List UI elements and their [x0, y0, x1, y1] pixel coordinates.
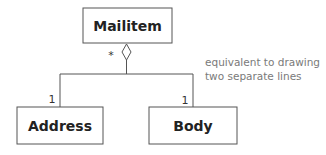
note-line-2: two separate lines [205, 70, 302, 82]
aggregation-diamond-icon [122, 44, 131, 60]
class-address: Address [17, 107, 103, 144]
aggregation-connectors [60, 60, 193, 107]
class-mailitem: Mailitem [83, 8, 172, 43]
multiplicity-body: 1 [182, 94, 189, 107]
class-body-label: Body [173, 118, 212, 134]
class-address-label: Address [28, 118, 92, 134]
multiplicity-whole: * [108, 49, 114, 62]
multiplicity-address: 1 [49, 93, 56, 106]
uml-diagram: Mailitem * 1 1 Address Body equivalent t… [0, 0, 326, 155]
class-body: Body [149, 107, 237, 144]
note-line-1: equivalent to drawing [205, 56, 320, 68]
class-mailitem-label: Mailitem [93, 18, 162, 34]
